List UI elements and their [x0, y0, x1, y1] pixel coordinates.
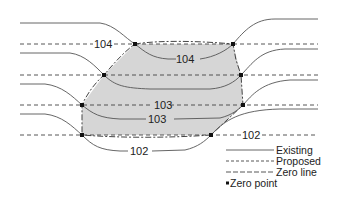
legend: Existing Proposed Zero line Zero point — [226, 144, 321, 189]
existing-label-102: 102 — [130, 145, 148, 157]
zero-point — [239, 73, 243, 77]
zero-point — [209, 133, 213, 137]
proposed-label-103: 103 — [154, 99, 172, 111]
legend-zero-point-label: Zero point — [230, 177, 277, 189]
legend-zero-point-swatch — [226, 182, 229, 185]
zero-point — [241, 103, 245, 107]
zero-point — [133, 42, 137, 46]
legend-zero-line-label: Zero line — [276, 166, 317, 178]
existing-label-104: 104 — [176, 53, 194, 65]
zero-point — [80, 133, 84, 137]
cut-fill-contour-diagram: 104 104 103 103 102 102 Existing Propose… — [0, 0, 338, 211]
zero-point — [80, 103, 84, 107]
existing-label-103: 103 — [148, 113, 166, 125]
proposed-label-102: 102 — [242, 129, 260, 141]
proposed-label-104: 104 — [94, 38, 112, 50]
zero-point — [102, 73, 106, 77]
zero-point — [231, 42, 235, 46]
